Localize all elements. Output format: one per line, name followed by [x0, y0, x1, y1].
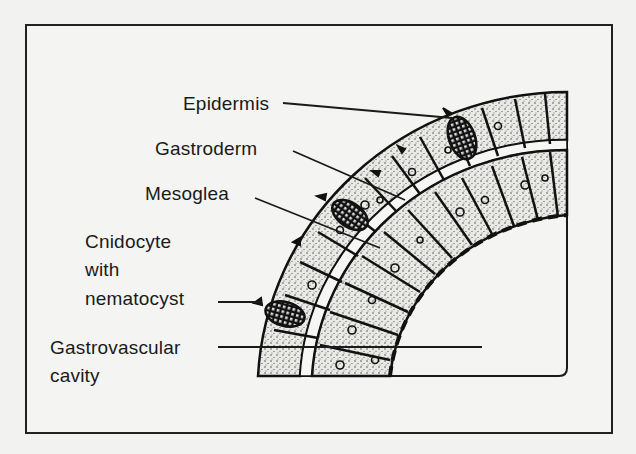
label-mesoglea: Mesoglea — [145, 182, 229, 205]
leader-epidermis — [283, 103, 452, 118]
label-cnidocyte-line3: nematocyst — [85, 287, 184, 310]
label-cnidocyte-line1: Cnidocyte — [85, 230, 171, 253]
label-gastroderm: Gastroderm — [155, 137, 257, 160]
label-cnidocyte-line2: with — [85, 258, 120, 281]
label-gastrovascular-line1: Gastrovascular — [50, 336, 181, 359]
label-gastrovascular-line2: cavity — [50, 364, 100, 387]
label-epidermis: Epidermis — [183, 92, 269, 115]
